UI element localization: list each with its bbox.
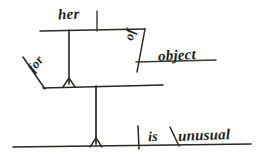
mid-baseline-line [43, 85, 163, 88]
word-object: object [158, 47, 197, 64]
prepositional-diagonal-line [137, 29, 145, 72]
word-is: is [148, 130, 158, 144]
word-unusual: unusual [178, 127, 231, 144]
word-of: of [122, 28, 137, 42]
word-her: her [58, 6, 80, 22]
bottom-baseline-line [13, 144, 251, 147]
verb-divider-line [138, 126, 139, 149]
sentence-diagram-canvas: her of object for is unusual [0, 0, 261, 158]
